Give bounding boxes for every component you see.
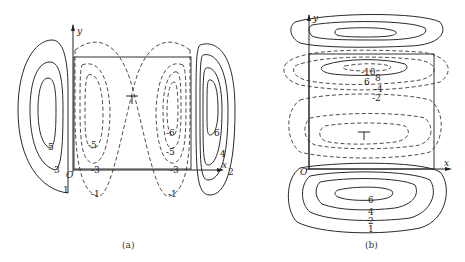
contour-label: -3 [170,165,179,175]
contour-label: -1 [91,189,100,199]
origin-label-a: O [66,170,74,180]
axis-y-label-a: y [76,26,83,36]
contour-label: 6 [364,77,370,87]
contour-label: 6 [368,195,374,205]
panel-a: y x O 5 3 1 6 4 2 -5 -3 -1 -6 -5 -3 -1 (… [18,24,235,250]
contour-label: -3 [91,165,100,175]
contour-label: -5 [166,147,175,157]
axis-y-label-b: y [312,13,319,23]
caption-a: (a) [122,240,134,250]
contour-label: 4 [220,149,226,159]
contour-label: 5 [48,142,54,152]
contour-label: 1 [63,185,69,195]
caption-b: (b) [365,240,378,250]
contour-label: 6 [214,128,220,138]
contour-label: -10 [361,67,376,77]
panel-b: y x O -10 8 6 -4 -2 6 4 2 1 (b) [284,13,452,250]
contour-label: -1 [168,189,177,199]
origin-label-b: O [300,167,308,177]
contour-label: 8 [375,73,381,83]
contour-label: 3 [54,165,60,175]
axis-x-label-a: x [222,160,227,170]
contour-label: -5 [88,140,97,150]
contour-a-left-1 [18,40,68,193]
contour-diagrams: y x O 5 3 1 6 4 2 -5 -3 -1 -6 -5 -3 -1 (… [0,0,465,262]
contour-label: 1 [368,224,374,234]
contour-label: -6 [166,128,175,138]
contour-label: -2 [372,93,381,103]
axis-x-label-b: x [444,158,449,168]
contour-label: 2 [228,167,234,177]
